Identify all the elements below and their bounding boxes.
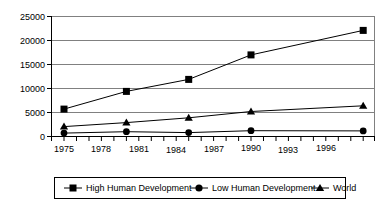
x-tick-label-1987: 1987 (204, 144, 224, 154)
data-point-marker (248, 127, 255, 134)
y-tick-label-25000: 25000 (20, 12, 45, 22)
x-axis-tick-labels: 1975 1978 1981 1984 1987 1990 1993 1996 (54, 143, 336, 155)
data-point-marker (185, 129, 192, 136)
data-point-marker (185, 76, 192, 83)
x-tick-label-1984: 1984 (166, 145, 186, 155)
x-tick-label-1975: 1975 (54, 144, 74, 154)
x-tick-label-1981: 1981 (129, 144, 149, 154)
x-tick-label-1978: 1978 (91, 144, 111, 154)
legend-label-high-human-development: High Human Development (86, 183, 192, 193)
y-tick-label-20000: 20000 (20, 36, 45, 46)
data-point-marker (61, 106, 68, 113)
x-tick-label-1993: 1993 (278, 145, 298, 155)
line-chart-figure: 25000 20000 15000 10000 5000 0 (0, 0, 392, 214)
square-marker-icon (70, 185, 77, 192)
data-point-marker (360, 127, 367, 134)
x-tick-label-1996: 1996 (316, 143, 336, 153)
y-axis-tick-labels: 25000 20000 15000 10000 5000 0 (20, 12, 45, 142)
y-tick-label-5000: 5000 (25, 108, 45, 118)
y-axis-ticks (47, 17, 51, 137)
data-point-marker (61, 130, 68, 137)
y-tick-label-15000: 15000 (20, 60, 45, 70)
y-tick-label-0: 0 (40, 132, 45, 142)
circle-marker-icon (195, 184, 202, 191)
y-tick-label-10000: 10000 (20, 84, 45, 94)
chart-canvas: 25000 20000 15000 10000 5000 0 (0, 0, 392, 214)
x-tick-label-1990: 1990 (241, 143, 261, 153)
legend-label-low-human-development: Low Human Development (212, 183, 316, 193)
data-point-marker (360, 27, 367, 34)
data-point-marker (123, 88, 130, 95)
chart-legend: High Human Development Low Human Develop… (55, 178, 357, 199)
plot-background (51, 16, 375, 136)
legend-label-world: World (333, 183, 356, 193)
data-point-marker (123, 128, 130, 135)
data-point-marker (248, 51, 255, 58)
